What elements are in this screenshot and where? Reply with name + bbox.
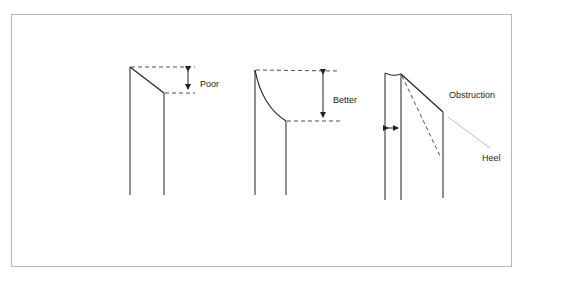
needle-bevel-diagram: Poor Better Obstruction Heel [0,0,579,287]
poor-needle-panel: Poor [130,67,219,195]
obstruction-label: Obstruction [449,90,495,100]
better-label: Better [333,95,357,105]
heel-label: Heel [482,153,501,163]
poor-label: Poor [200,79,219,89]
heel-leader-line [448,117,490,148]
better-needle-panel: Better [255,70,357,195]
obstruction-needle-panel: Obstruction Heel [385,73,501,200]
